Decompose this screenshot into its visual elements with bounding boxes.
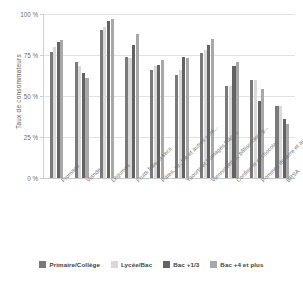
bar-chart: Taux de consommateurs 0 %25 %50 %75 %100… xyxy=(0,0,303,281)
y-tick-label: 25 % xyxy=(0,134,38,141)
legend-label: Lycée/Bac xyxy=(121,261,152,268)
y-axis-ticks: 0 %25 %50 %75 %100 % xyxy=(0,0,41,281)
bar-group xyxy=(94,14,119,178)
legend-label: Bac +1/3 xyxy=(173,261,199,268)
bar-groups xyxy=(44,14,295,178)
legend-label: Bac +4 et plus xyxy=(220,261,263,268)
chart-legend: Primaire/CollègeLycée/BacBac +1/3Bac +4 … xyxy=(0,261,303,268)
legend-item[interactable]: Bac +4 et plus xyxy=(210,261,263,268)
y-tick-label: 75 % xyxy=(0,52,38,59)
legend-item[interactable]: Primaire/Collège xyxy=(39,261,99,268)
bar-group xyxy=(69,14,94,178)
legend-swatch xyxy=(39,261,46,268)
y-tick-label: 100 % xyxy=(0,11,38,18)
bar[interactable] xyxy=(85,78,88,178)
bar-group xyxy=(119,14,144,178)
y-tick-label: 0 % xyxy=(0,175,38,182)
legend-label: Primaire/Collège xyxy=(49,261,99,268)
y-tick-label: 50 % xyxy=(0,93,38,100)
legend-item[interactable]: Lycée/Bac xyxy=(111,261,152,268)
bar[interactable] xyxy=(136,34,139,178)
bar[interactable] xyxy=(111,19,114,178)
legend-swatch xyxy=(210,261,217,268)
bar[interactable] xyxy=(60,40,63,178)
legend-swatch xyxy=(163,261,170,268)
legend-item[interactable]: Bac +1/3 xyxy=(163,261,199,268)
legend-swatch xyxy=(111,261,118,268)
bar-group xyxy=(44,14,69,178)
